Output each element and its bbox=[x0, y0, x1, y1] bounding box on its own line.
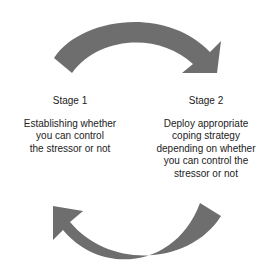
stage-1-description-line: the stressor or not bbox=[18, 143, 122, 156]
stage-2-description-line: Deploy appropriate bbox=[154, 118, 258, 131]
stage-2-description-line: depending on whether bbox=[154, 143, 258, 156]
top-curved-arrow-icon bbox=[54, 22, 221, 73]
stage-1-description-line: Establishing whether bbox=[18, 118, 122, 131]
stage-2: Stage 2 Deploy appropriate coping strate… bbox=[154, 95, 258, 180]
stage-2-description-line: you can control the bbox=[154, 155, 258, 168]
stage-1-description-line: you can control bbox=[18, 130, 122, 143]
stage-1-title: Stage 1 bbox=[18, 95, 122, 108]
stage-2-title: Stage 2 bbox=[154, 95, 258, 108]
stage-1: Stage 1 Establishing whether you can con… bbox=[18, 95, 122, 155]
stage-2-description-line: coping strategy bbox=[154, 130, 258, 143]
stage-2-description-line: stressor or not bbox=[154, 168, 258, 181]
bottom-curved-arrow-icon bbox=[53, 203, 221, 259]
